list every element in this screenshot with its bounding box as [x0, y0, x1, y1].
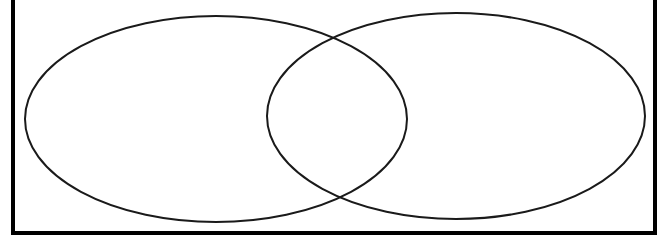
canvas-background — [0, 0, 666, 239]
venn-diagram-canvas — [0, 0, 666, 239]
venn-diagram-svg — [0, 0, 666, 239]
